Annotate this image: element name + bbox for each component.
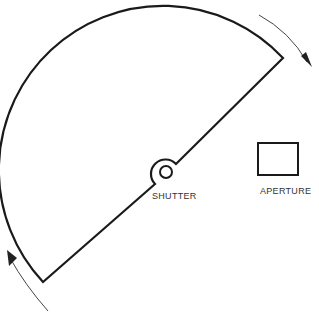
shutter-hub-icon [160,166,172,178]
shutter-label: SHUTTER [152,191,197,201]
aperture-label: APERTURE [260,186,311,196]
aperture-rect [258,143,298,175]
shutter-blade [0,6,283,282]
shutter-diagram: SHUTTER APERTURE [0,0,319,317]
rotation-arrow-top-icon [259,15,312,67]
diagram-canvas [0,0,319,317]
